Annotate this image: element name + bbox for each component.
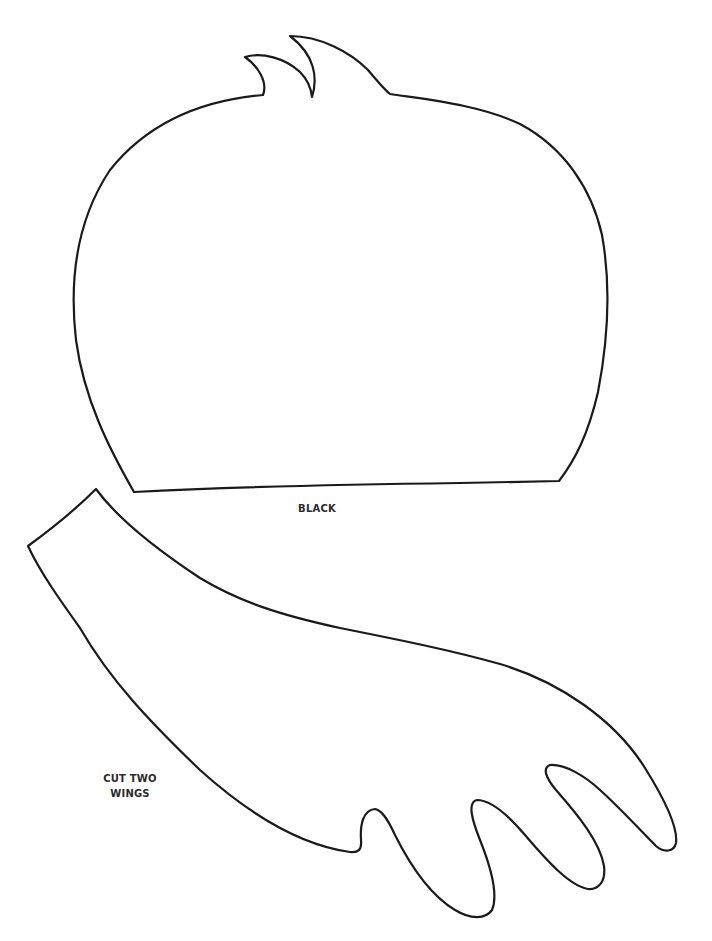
wing-instruction-label: CUT TWO WINGS bbox=[100, 771, 160, 801]
wing-outline bbox=[28, 489, 676, 917]
body-outline bbox=[74, 36, 608, 492]
wing-instruction-line-2: WINGS bbox=[100, 786, 160, 801]
wing-instruction-line-1: CUT TWO bbox=[100, 771, 160, 786]
body-color-label: BLACK bbox=[295, 501, 339, 516]
template-page: BLACK CUT TWO WINGS bbox=[0, 0, 712, 941]
